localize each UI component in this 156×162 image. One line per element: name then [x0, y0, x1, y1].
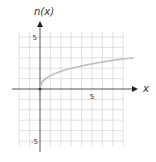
origin-point	[38, 87, 41, 90]
y-axis-label: n(x)	[34, 6, 54, 17]
x-axis	[12, 86, 138, 92]
x-axis-label: x	[142, 83, 149, 94]
sqrt-curve	[40, 58, 134, 89]
y-axis-arrow-icon	[37, 21, 43, 27]
y-tick-label-5: 5	[33, 34, 37, 42]
x-axis-arrow-icon	[132, 86, 138, 92]
graph: n(x) x 5 5 -5	[0, 0, 156, 162]
y-tick-label-neg5: -5	[31, 138, 38, 146]
x-tick-label-5: 5	[90, 93, 94, 101]
